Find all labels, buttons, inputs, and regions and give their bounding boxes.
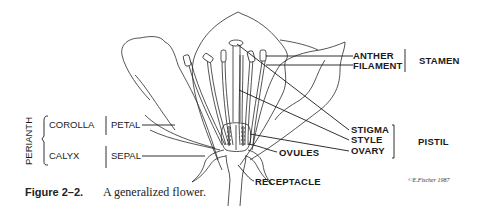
- label-corolla: COROLLA: [49, 119, 95, 130]
- label-sepal: SEPAL: [111, 150, 141, 161]
- label-petal: PETAL: [111, 119, 140, 130]
- label-perianth: PERIANTH: [23, 117, 34, 165]
- stamens: [183, 50, 266, 145]
- label-calyx: CALYX: [49, 150, 80, 161]
- leader-lines: [142, 44, 353, 181]
- artist-signature: ©E.Fischer 1987: [408, 177, 451, 183]
- label-ovules: OVULES: [279, 147, 319, 158]
- flower-diagram: ANTHER FILAMENT STAMEN STIGMA STYLE OVAR…: [0, 0, 479, 206]
- receptacle: [226, 155, 246, 206]
- label-receptacle: RECEPTACLE: [255, 176, 321, 187]
- sepal-left: [192, 150, 226, 182]
- figure-caption: A generalized flower.: [103, 185, 206, 199]
- label-stamen: STAMEN: [419, 55, 460, 66]
- label-ovary: OVARY: [351, 145, 385, 156]
- pistil-bracket: [392, 125, 394, 158]
- figure-number: Figure 2–2.: [25, 186, 83, 198]
- label-style: STYLE: [351, 134, 383, 145]
- label-pistil: PISTIL: [418, 136, 449, 147]
- label-filament: FILAMENT: [353, 60, 403, 71]
- perianth-bracket: [42, 116, 48, 165]
